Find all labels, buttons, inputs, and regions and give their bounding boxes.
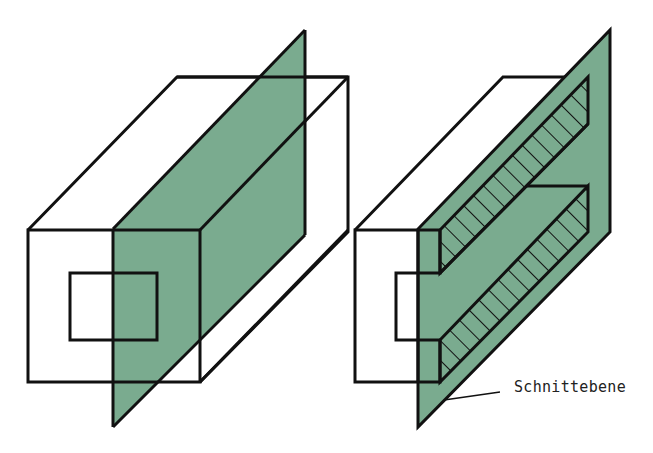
right-figure [355,30,610,427]
cutting-plane-label: Schnittebene [514,378,626,396]
left-figure [28,30,348,427]
section-diagram: Schnittebene [0,0,653,453]
